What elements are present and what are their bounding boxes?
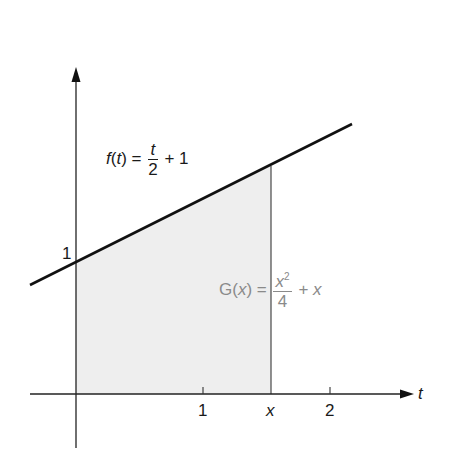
- g-fraction: x2 4: [273, 272, 291, 310]
- g-tail: + x: [298, 280, 321, 299]
- f-tail: + 1: [164, 149, 188, 168]
- x-axis-label: t: [418, 385, 423, 402]
- g-name: G: [219, 280, 232, 299]
- g-den: 4: [273, 292, 291, 310]
- y-tick-label-1: 1: [62, 245, 71, 262]
- x-axis-arrow-icon: [400, 390, 414, 399]
- f-eq: =: [132, 149, 142, 168]
- f-arg: t: [116, 149, 121, 168]
- f-fraction: t 2: [148, 141, 157, 178]
- g-eq: =: [257, 280, 267, 299]
- g-num-exp: 2: [284, 271, 290, 282]
- g-arg: x: [238, 280, 247, 299]
- f-num: t: [148, 141, 157, 160]
- x-tick-label-x: x: [266, 402, 275, 419]
- y-axis-arrow-icon: [72, 67, 81, 82]
- g-num-base: x: [275, 272, 284, 291]
- x-tick-label-1: 1: [198, 402, 207, 419]
- f-name: f: [106, 149, 111, 168]
- g-num: x2: [273, 272, 291, 292]
- x-tick-label-2: 2: [325, 402, 334, 419]
- g-label: G(x) = x2 4 + x: [219, 272, 321, 310]
- graph-canvas: [0, 0, 454, 459]
- f-den: 2: [148, 160, 157, 178]
- f-label: f(t) = t 2 + 1: [106, 141, 189, 178]
